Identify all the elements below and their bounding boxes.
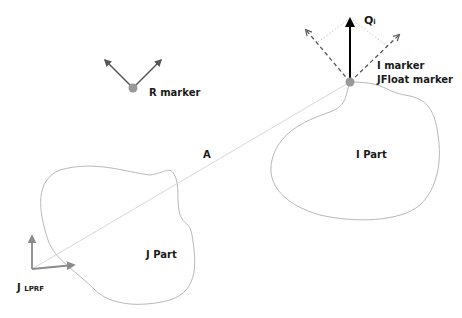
line-a-label: A bbox=[203, 150, 211, 160]
jfloat-marker-label: JFloat marker bbox=[377, 75, 453, 85]
i-part-label: I Part bbox=[356, 150, 387, 160]
qi-sub: i bbox=[373, 18, 375, 26]
i-marker-label: I marker bbox=[377, 61, 424, 71]
line-a bbox=[32, 82, 350, 269]
qi-label: Qi bbox=[364, 15, 376, 26]
qi-main: Q bbox=[364, 14, 373, 27]
diagram-canvas bbox=[0, 0, 462, 318]
j-part-label: J Part bbox=[146, 250, 177, 260]
r-marker-label: R marker bbox=[149, 88, 200, 98]
j-lprf-main: J bbox=[17, 282, 21, 293]
j-lprf-label: J LPRF bbox=[17, 283, 44, 293]
j-lprf-frame bbox=[32, 236, 74, 269]
j-lprf-sub: LPRF bbox=[24, 285, 44, 293]
